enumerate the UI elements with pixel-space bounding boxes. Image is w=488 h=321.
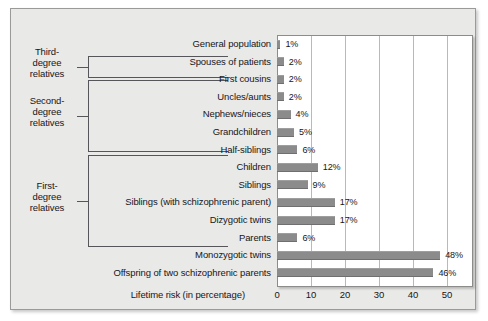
bar	[277, 163, 318, 172]
bar-value-label: 12%	[323, 162, 341, 172]
bar-value-label: 2%	[289, 57, 302, 67]
bar	[277, 40, 280, 49]
x-tick-label: 40	[408, 289, 418, 300]
bar	[277, 145, 297, 154]
bracket-stem-third-degree	[77, 67, 88, 68]
bar	[277, 75, 284, 84]
bar-value-label: 2%	[289, 92, 302, 102]
x-tick-label: 0	[274, 289, 279, 300]
bar-value-label: 48%	[445, 250, 463, 260]
x-tick-label: 10	[306, 289, 316, 300]
bar-value-label: 17%	[340, 215, 358, 225]
bar	[277, 198, 335, 207]
bar-value-label: 1%	[285, 39, 298, 49]
bar-row: 48%	[277, 247, 463, 263]
bar	[277, 57, 284, 66]
bar	[277, 128, 294, 137]
category-label: Nephews/nieces	[41, 108, 271, 119]
x-axis: 01020304050	[277, 288, 477, 304]
bar-row: 17%	[277, 194, 358, 210]
category-label: Children	[41, 161, 271, 172]
bar-value-label: 5%	[299, 127, 312, 137]
bar	[277, 251, 440, 260]
bar-row: 6%	[277, 142, 315, 158]
bar-value-label: 46%	[438, 268, 456, 278]
bar-value-label: 4%	[296, 109, 309, 119]
category-label: Dizygotic twins	[41, 214, 271, 225]
bar-row: 5%	[277, 124, 312, 140]
x-tick-label: 50	[442, 289, 452, 300]
category-label: Uncles/aunts	[41, 91, 271, 102]
bar-row: 6%	[277, 230, 315, 246]
category-label: Parents	[41, 232, 271, 243]
bar	[277, 216, 335, 225]
x-tick-label: 30	[374, 289, 384, 300]
category-label: General population	[41, 38, 271, 49]
bar	[277, 233, 297, 242]
bar-row: 9%	[277, 177, 325, 193]
bar-value-label: 17%	[340, 197, 358, 207]
axis-title-x: Lifetime risk (in percentage)	[75, 289, 245, 300]
bar-row: 12%	[277, 159, 341, 175]
category-label: Spouses of patients	[41, 56, 271, 67]
bar-row: 17%	[277, 212, 358, 228]
bar	[277, 92, 284, 101]
bar	[277, 268, 433, 277]
bar-row: 46%	[277, 265, 456, 281]
bar	[277, 110, 291, 119]
category-label: Siblings (with schizophrenic parent)	[41, 196, 271, 207]
category-label: Half-siblings	[41, 144, 271, 155]
category-label: Offspring of two schizophrenic parents	[41, 267, 271, 278]
bar-value-label: 2%	[289, 74, 302, 84]
bar-value-label: 6%	[302, 233, 315, 243]
bar-row: 1%	[277, 36, 298, 52]
bar-value-label: 6%	[302, 145, 315, 155]
bar	[277, 180, 308, 189]
bar-row: 2%	[277, 71, 302, 87]
bar-row: 2%	[277, 89, 302, 105]
category-label: Siblings	[41, 179, 271, 190]
bar-value-label: 9%	[313, 180, 326, 190]
category-label: Grandchildren	[41, 126, 271, 137]
x-tick-label: 20	[340, 289, 350, 300]
category-label: Monozygotic twins	[41, 249, 271, 260]
chart-screenshot: Third- degree relatives Second- degree r…	[0, 0, 488, 321]
bar-row: 2%	[277, 54, 302, 70]
scanned-page-panel: Third- degree relatives Second- degree r…	[10, 8, 476, 310]
bar-row: 4%	[277, 106, 308, 122]
category-label: First cousins	[41, 73, 271, 84]
